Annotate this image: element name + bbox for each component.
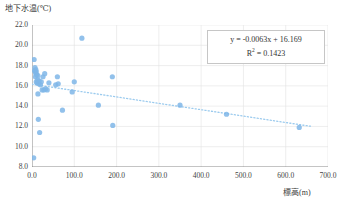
y-tick-label: 20.0 xyxy=(2,41,28,49)
y-tick-label: 12.0 xyxy=(2,122,28,130)
data-point xyxy=(60,108,65,113)
x-axis-title: 標高(m) xyxy=(283,187,311,198)
data-point xyxy=(37,130,42,135)
data-point xyxy=(297,125,302,130)
r-squared-number: = 0.1423 xyxy=(255,49,286,58)
data-point xyxy=(110,123,115,128)
data-point xyxy=(42,71,47,76)
scatter-chart: 地下水温(℃) 8.010.012.014.016.018.020.022.00… xyxy=(0,0,343,204)
x-tick-label: 300.0 xyxy=(139,172,179,180)
y-tick-label: 14.0 xyxy=(2,102,28,110)
regression-equation: y = -0.0063x + 16.169 xyxy=(212,34,320,45)
x-tick-label: 600.0 xyxy=(266,172,306,180)
y-tick-label: 16.0 xyxy=(2,82,28,90)
data-point xyxy=(32,57,37,62)
data-point xyxy=(224,112,229,117)
y-tick-label: 22.0 xyxy=(2,21,28,29)
data-point xyxy=(45,87,50,92)
y-tick-label: 18.0 xyxy=(2,62,28,70)
data-point xyxy=(55,74,60,79)
data-point xyxy=(177,103,182,108)
data-point xyxy=(79,36,84,41)
x-tick-label: 700.0 xyxy=(308,172,343,180)
y-tick-label: 10.0 xyxy=(2,143,28,151)
data-point xyxy=(36,117,41,122)
x-tick-label: 500.0 xyxy=(223,172,263,180)
x-tick-label: 200.0 xyxy=(97,172,137,180)
data-point xyxy=(72,79,77,84)
x-tick-label: 400.0 xyxy=(181,172,221,180)
x-tick-label: 100.0 xyxy=(54,172,94,180)
data-point xyxy=(110,74,115,79)
data-point xyxy=(39,79,44,84)
y-tick-label: 8.0 xyxy=(2,163,28,171)
data-point xyxy=(70,89,75,94)
y-axis-title: 地下水温(℃) xyxy=(5,3,51,14)
r-squared-value: R2 = 0.1423 xyxy=(212,45,320,59)
data-point xyxy=(56,81,61,86)
trendline-equation-box: y = -0.0063x + 16.169 R2 = 0.1423 xyxy=(207,30,325,64)
x-tick-label: 0.0 xyxy=(12,172,52,180)
data-point xyxy=(35,73,40,78)
data-point xyxy=(46,80,51,85)
data-point xyxy=(32,155,36,160)
data-point xyxy=(35,91,40,96)
data-point xyxy=(96,103,101,108)
